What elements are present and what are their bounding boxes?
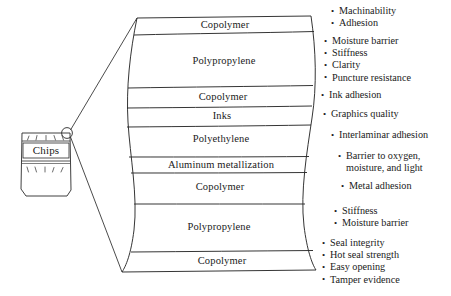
- annotation-group-2: Moisture barrier Stiffness Clarity Punct…: [324, 35, 411, 84]
- annotation-item: Seal integrity: [322, 237, 400, 249]
- layer-divider-6: [131, 173, 307, 174]
- layer-divider-5: [129, 157, 309, 158]
- annotation-group-5: Interlaminar adhesion: [331, 129, 428, 141]
- annotation-item: Ink adhesion: [321, 89, 381, 101]
- layer-label-copolymer-3: Copolymer: [134, 181, 306, 192]
- stack-top-edge: [137, 16, 311, 18]
- annotation-group-6: Barrier to oxygen, moisture, and light: [338, 150, 442, 174]
- annotation-item: Hot seal strength: [322, 249, 400, 261]
- annotation-item: Moisture barrier: [324, 35, 411, 47]
- annotation-group-9: Seal integrity Hot seal strength Easy op…: [322, 237, 400, 286]
- annotation-item: Clarity: [324, 59, 411, 71]
- annotation-item: Stiffness: [334, 205, 408, 217]
- annotation-item: Adhesion: [331, 17, 396, 29]
- stack-bottom-edge: [122, 270, 316, 272]
- layer-divider-3: [127, 106, 312, 108]
- layer-divider-8: [131, 251, 313, 253]
- layer-divider-2: [128, 86, 313, 89]
- annotation-item: Machinability: [331, 5, 396, 17]
- multilayer-packaging-film-diagram: Copolymer Polypropylene Copolymer Inks P…: [0, 0, 451, 296]
- layer-label-aluminum-metallization: Aluminum metallization: [133, 159, 309, 170]
- annotation-text: Barrier to oxygen,: [346, 150, 420, 161]
- annotation-item: Interlaminar adhesion: [331, 129, 428, 141]
- layer-label-polypropylene-2: Polypropylene: [133, 221, 305, 232]
- layer-label-copolymer-1: Copolymer: [140, 19, 310, 30]
- annotation-item: Barrier to oxygen, moisture, and light: [338, 150, 442, 174]
- layer-label-copolymer-4: Copolymer: [131, 255, 313, 266]
- annotation-item: Graphics quality: [323, 108, 399, 120]
- chips-product-label: Chips: [24, 143, 68, 158]
- annotation-item: Puncture resistance: [324, 72, 411, 84]
- layer-label-polypropylene-1: Polypropylene: [136, 55, 312, 66]
- layer-divider-1: [134, 32, 314, 36]
- annotation-item: Moisture barrier: [334, 217, 408, 229]
- layer-label-copolymer-2: Copolymer: [134, 91, 312, 102]
- annotation-text-continuation: moisture, and light: [346, 162, 442, 174]
- annotation-item: Tamper evidence: [322, 274, 400, 286]
- layer-divider-4: [127, 125, 311, 127]
- annotation-item: Stiffness: [324, 47, 411, 59]
- annotation-group-4: Graphics quality: [323, 108, 399, 120]
- layer-label-inks: Inks: [133, 110, 311, 121]
- annotation-item: Easy opening: [322, 261, 400, 273]
- annotation-group-8: Stiffness Moisture barrier: [334, 205, 408, 229]
- annotation-item: Metal adhesion: [341, 180, 412, 192]
- annotation-group-7: Metal adhesion: [341, 180, 412, 192]
- layer-label-polyethylene: Polyethylene: [132, 133, 310, 144]
- annotation-group-1: Machinability Adhesion: [331, 5, 396, 29]
- stack-left-edge: [122, 18, 137, 272]
- annotation-group-3: Ink adhesion: [321, 89, 381, 101]
